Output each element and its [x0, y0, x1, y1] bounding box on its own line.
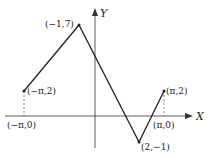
label-2-neg1: (2,−1)	[141, 142, 170, 152]
label-neg-pi-2: (−π,2)	[27, 86, 56, 96]
y-axis-label: Y	[100, 7, 109, 20]
label-neg1-7: (−1,7)	[45, 19, 74, 29]
x-axis-arrow-icon	[185, 113, 193, 119]
point-neg1-7	[78, 24, 81, 27]
y-axis-arrow-icon	[92, 8, 98, 16]
graph-diagram: X Y (−π,2) (−1,7) (2,−1) (π,2) (−π,0) (π…	[0, 0, 209, 158]
label-pi-2: (π,2)	[166, 86, 188, 96]
label-pi-0: (π,0)	[153, 120, 175, 130]
x-axis-label: X	[195, 110, 205, 123]
label-neg-pi-0: (−π,0)	[7, 120, 36, 130]
piecewise-function-line	[24, 25, 164, 142]
point-neg-pi-2	[23, 90, 26, 93]
